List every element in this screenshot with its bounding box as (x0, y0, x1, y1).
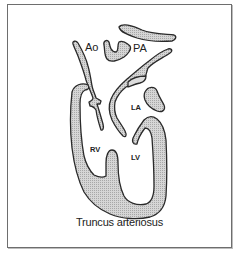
label-left-atrium: LA (131, 103, 142, 112)
label-aorta: Ao (85, 41, 98, 53)
label-left-ventricle: LV (131, 153, 140, 162)
pulmonary-branch-upper (119, 25, 176, 42)
truncal-root (104, 41, 131, 62)
label-right-ventricle: RV (90, 145, 100, 154)
label-pulmonary-artery: PA (133, 42, 148, 54)
left-atrium-wall (144, 87, 164, 111)
pulmonary-artery-arm (109, 49, 172, 137)
figure-caption: Truncus arteriosus (7, 216, 232, 228)
